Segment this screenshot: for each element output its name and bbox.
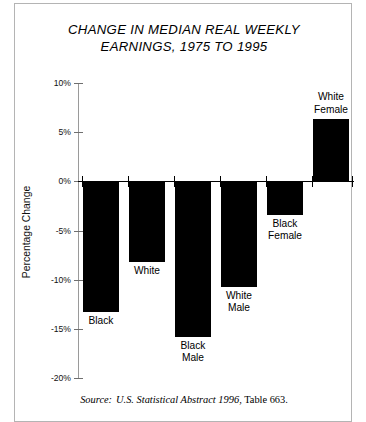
chart-title: CHANGE IN MEDIAN REAL WEEKLY EARNINGS, 1… [15, 21, 353, 55]
y-tick-label: -5% [56, 226, 71, 236]
y-tick [74, 231, 83, 232]
bar [129, 181, 165, 262]
x-tick [128, 176, 129, 187]
bar-label: BlackFemale [250, 218, 320, 243]
source-title: U.S. Statistical Abstract 1996 [116, 394, 239, 405]
y-tick [74, 132, 83, 133]
bar-label: WhiteFemale [296, 91, 366, 116]
bar-label-line: Female [250, 230, 320, 243]
plot-area: Percentage Change 10%5%0%-5%-10%-15%-20%… [78, 83, 354, 381]
bar [83, 181, 119, 312]
y-tick [74, 280, 83, 281]
y-tick-label: -10% [51, 275, 71, 285]
bar-label-line: Black [250, 218, 320, 231]
bar [313, 119, 349, 181]
bar-label-line: Male [158, 352, 228, 365]
y-tick [74, 329, 83, 330]
y-tick [74, 83, 83, 84]
bar-label: Black [66, 315, 136, 328]
y-tick-label: -20% [51, 373, 71, 383]
bar-label: White [112, 265, 182, 278]
x-tick [174, 176, 175, 187]
chart-title-line-2: EARNINGS, 1975 TO 1995 [15, 38, 353, 55]
y-axis-title: Percentage Change [21, 186, 32, 278]
y-tick-label: 5% [59, 127, 71, 137]
x-tick [266, 176, 267, 187]
bar-label: WhiteMale [204, 290, 274, 315]
x-tick [220, 176, 221, 187]
bar-label-line: Male [204, 302, 274, 315]
x-tick [352, 176, 353, 187]
bar-label-line: Black [158, 340, 228, 353]
chart-title-line-1: CHANGE IN MEDIAN REAL WEEKLY [68, 22, 300, 37]
x-tick [312, 176, 313, 187]
source-note: Source:U.S. Statistical Abstract 1996, T… [15, 394, 353, 405]
source-rest: , Table 663. [239, 394, 288, 405]
y-tick-label: 10% [54, 78, 71, 88]
bar-label-line: Black [66, 315, 136, 328]
x-tick [82, 176, 83, 187]
bar-label: BlackMale [158, 340, 228, 365]
bar-label-line: White [296, 91, 366, 104]
bar-label-line: White [112, 265, 182, 278]
bar-label-line: White [204, 290, 274, 303]
source-prefix: Source: [80, 394, 112, 405]
y-tick-label: 0% [59, 176, 71, 186]
chart-figure: CHANGE IN MEDIAN REAL WEEKLY EARNINGS, 1… [14, 3, 352, 422]
bar [267, 181, 303, 214]
bar-label-line: Female [296, 104, 366, 117]
y-tick [74, 378, 83, 379]
